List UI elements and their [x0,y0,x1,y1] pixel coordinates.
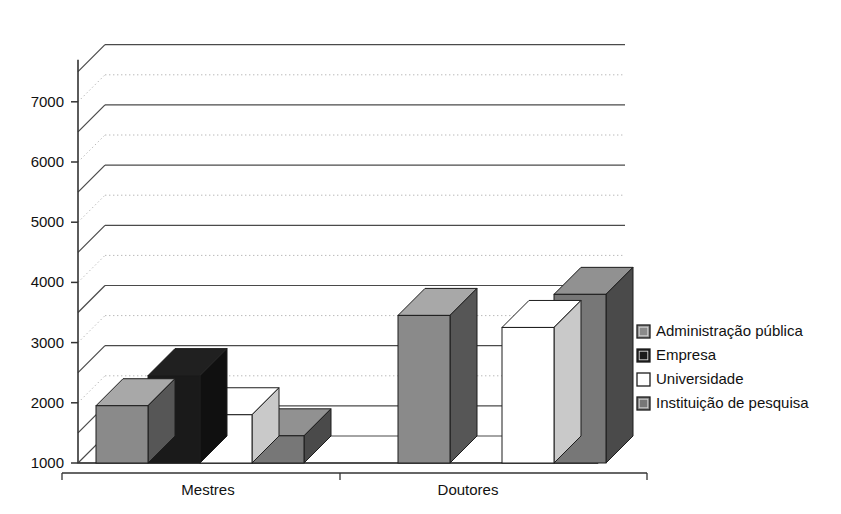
y-axis-tick-label: 5000 [31,213,64,230]
bar-chart-3d: 7000600050004000300020001000 MestresDout… [0,0,841,514]
legend-item-label: Administração pública [656,322,803,339]
bar [502,300,581,463]
x-axis-category-label: Mestres [181,481,234,498]
legend-item: Administração pública [637,322,803,339]
chart-container: 7000600050004000300020001000 MestresDout… [0,0,841,514]
y-axis-tick-label: 1000 [31,454,64,471]
legend-swatch [637,373,650,386]
bar-front-face [502,327,554,463]
bar-front-face [398,315,450,463]
y-axis-tick-label: 4000 [31,273,64,290]
x-axis-category-label: Doutores [438,481,499,498]
bar-side-face [450,288,477,463]
legend-item-label: Universidade [656,370,744,387]
bar [398,288,477,463]
y-axis-tick-label: 2000 [31,394,64,411]
legend-item: Empresa [637,346,717,363]
legend-item-label: Instituição de pesquisa [656,394,809,411]
y-axis-tick-label: 6000 [31,153,64,170]
y-axis-tick-label: 3000 [31,334,64,351]
legend-item: Instituição de pesquisa [637,394,809,411]
y-axis-tick-label: 7000 [31,93,64,110]
legend-item-label: Empresa [656,346,717,363]
bar-side-face [606,267,633,463]
bar-side-face [554,300,581,463]
bar-front-face [96,406,148,463]
